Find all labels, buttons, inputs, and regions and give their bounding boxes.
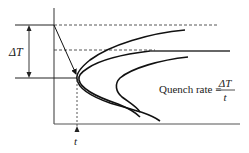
time-label: t [74,135,78,147]
reference-lines [15,25,230,78]
formula-denominator: t [223,91,227,103]
outer-c-curve [77,30,185,121]
time-marker: t [74,80,80,147]
time-arrowhead [75,126,80,132]
formula-numerator: ΔT [218,77,232,89]
formula-prefix: Quench rate = [159,83,221,95]
quench-rate-diagram: ΔT t Quench rate = ΔT t [0,0,249,153]
delta-t-label: ΔT [8,45,24,59]
delta-t-arrowhead-top [27,25,32,31]
quench-rate-formula: Quench rate = ΔT t [159,77,235,103]
cooling-path-arrow [54,25,76,74]
ttt-curves [77,30,188,121]
delta-t-dimension: ΔT [8,25,32,78]
delta-t-arrowhead-bottom [27,72,32,78]
